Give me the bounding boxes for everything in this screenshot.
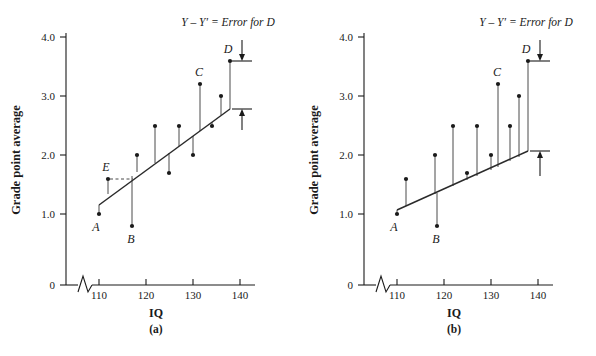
- data-point: [435, 224, 439, 228]
- y-axis-title: Grade point average: [9, 105, 23, 215]
- x-tick-label-120: 120: [138, 289, 155, 301]
- data-point: [489, 153, 493, 157]
- data-point: [97, 212, 101, 216]
- y-tick-label-3: 3.0: [41, 90, 55, 102]
- data-point: [404, 177, 408, 181]
- data-point: [465, 171, 469, 175]
- x-axis-title: IQ: [447, 306, 461, 320]
- x-tick-label-140: 140: [232, 289, 249, 301]
- data-point: [508, 124, 512, 128]
- point-label-a: A: [91, 220, 100, 234]
- point-label-a: A: [389, 220, 398, 234]
- panel-a-regression-line: [99, 109, 230, 205]
- data-point: [451, 124, 455, 128]
- data-point: [106, 177, 110, 181]
- panel-b: Grade point average 4.0 3.0 2.0 1.0 0 11…: [298, 0, 596, 356]
- data-point: [496, 82, 500, 86]
- x-tick-label-140: 140: [530, 289, 547, 301]
- arrow-up-icon: [239, 109, 245, 116]
- data-point: [228, 59, 232, 63]
- y-tick-label-4: 4.0: [41, 31, 55, 43]
- x-axis-title: IQ: [149, 306, 163, 320]
- y-tick-label-3: 3.0: [339, 90, 353, 102]
- panel-b-regression-line: [397, 151, 528, 210]
- arrow-down-icon: [239, 54, 245, 61]
- data-point: [198, 82, 202, 86]
- x-tick-label-130: 130: [483, 289, 500, 301]
- y-tick-label-0: 0: [348, 279, 354, 291]
- panel-a: Grade point average 4.0 3.0 2.0 1.0 0 11…: [0, 0, 298, 356]
- x-tick-label-110: 110: [91, 289, 108, 301]
- panel-a-residuals: [99, 61, 230, 226]
- data-point: [177, 124, 181, 128]
- y-tick-label-4: 4.0: [339, 31, 353, 43]
- data-point: [153, 124, 157, 128]
- axis-break-icon: [376, 276, 390, 292]
- panel-b-annotation: Y – Y′ = Error for D: [479, 16, 573, 29]
- point-label-b: B: [127, 232, 135, 246]
- panel-b-plot: Grade point average 4.0 3.0 2.0 1.0 0 11…: [298, 0, 596, 356]
- data-point: [130, 224, 134, 228]
- y-tick-label-2: 2.0: [339, 149, 353, 161]
- panel-a-data-points: [97, 59, 232, 228]
- data-point: [433, 153, 437, 157]
- data-point: [526, 59, 530, 63]
- data-point: [191, 153, 195, 157]
- y-axis-title: Grade point average: [307, 105, 321, 215]
- arrow-up-icon: [537, 151, 543, 158]
- data-point: [167, 171, 171, 175]
- regression-error-figure: Grade point average 4.0 3.0 2.0 1.0 0 11…: [0, 0, 596, 356]
- y-tick-label-2: 2.0: [41, 149, 55, 161]
- y-tick-label-1: 1.0: [41, 208, 55, 220]
- point-label-b: B: [432, 232, 440, 246]
- panel-a-caption: (a): [149, 323, 163, 336]
- x-tick-label-110: 110: [389, 289, 406, 301]
- x-tick-label-120: 120: [436, 289, 453, 301]
- point-label-c: C: [195, 65, 204, 79]
- panel-a-plot: Grade point average 4.0 3.0 2.0 1.0 0 11…: [0, 0, 298, 356]
- y-tick-label-1: 1.0: [339, 208, 353, 220]
- y-tick-label-0: 0: [50, 279, 56, 291]
- panel-b-error-marker: [530, 40, 550, 176]
- axis-break-icon: [78, 276, 92, 292]
- arrow-down-icon: [537, 54, 543, 61]
- panel-b-caption: (b): [447, 323, 461, 336]
- panel-a-annotation: Y – Y′ = Error for D: [181, 16, 275, 29]
- data-point: [219, 94, 223, 98]
- point-label-d: D: [521, 42, 531, 56]
- point-label-c: C: [493, 65, 502, 79]
- point-label-e: E: [101, 160, 110, 174]
- data-point: [395, 212, 399, 216]
- point-label-d: D: [223, 42, 233, 56]
- panel-a-error-marker: [232, 40, 252, 130]
- data-point: [210, 124, 214, 128]
- data-point: [517, 94, 521, 98]
- x-tick-label-130: 130: [185, 289, 202, 301]
- data-point: [135, 153, 139, 157]
- data-point: [475, 124, 479, 128]
